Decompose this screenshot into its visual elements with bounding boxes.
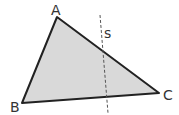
vertex-label-c: C [163, 87, 173, 103]
triangle-abc [22, 17, 159, 103]
vertex-label-a: A [51, 2, 61, 18]
vertex-label-b: B [10, 99, 20, 115]
line-label-s: s [104, 25, 111, 41]
triangle-diagram: A B C s [0, 0, 179, 115]
